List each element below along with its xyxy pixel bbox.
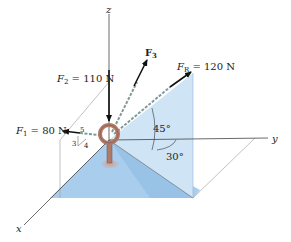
f3-arrow — [134, 60, 147, 86]
angle-30-label: 30° — [166, 151, 184, 162]
f2-label: F2 = 110 N — [56, 73, 114, 86]
f1-label: F1 = 80 N — [15, 125, 67, 138]
x-axis-label: x — [16, 223, 22, 234]
slope-vertical: 3 — [72, 140, 76, 148]
slope-hyp: 5 — [80, 126, 84, 134]
force-diagram: 5 3 4 45° 30° z y x F2 = 110 N F3 FR = 1… — [0, 0, 291, 242]
fr-label: FR = 120 N — [176, 61, 235, 74]
f3-label: F3 — [145, 47, 157, 60]
y-axis-label: y — [271, 133, 278, 144]
angle-45-label: 45° — [153, 123, 171, 134]
slope-horizontal: 4 — [84, 142, 89, 150]
z-axis-label: z — [105, 4, 112, 15]
